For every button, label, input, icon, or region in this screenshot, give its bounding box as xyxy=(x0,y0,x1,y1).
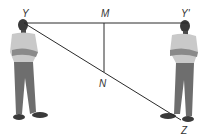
diagram-canvas: Y M Y' N Z xyxy=(0,0,203,138)
label-Y-prime: Y' xyxy=(181,9,190,19)
label-Y: Y xyxy=(22,9,29,19)
diagram-svg xyxy=(0,0,203,138)
label-Z: Z xyxy=(181,126,187,136)
label-M: M xyxy=(101,9,109,19)
right-person-figure xyxy=(160,20,198,122)
segment-YZ xyxy=(24,23,181,120)
label-N: N xyxy=(99,79,106,89)
